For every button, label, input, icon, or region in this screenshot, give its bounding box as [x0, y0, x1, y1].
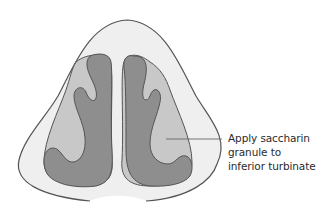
annotation-line-3: inferior turbinate: [228, 159, 316, 173]
annotation-line-2: granule to: [228, 145, 316, 159]
annotation-label: Apply saccharin granule to inferior turb…: [228, 131, 316, 173]
annotation-line-1: Apply saccharin: [228, 131, 316, 145]
nasal-diagram: [0, 0, 328, 219]
